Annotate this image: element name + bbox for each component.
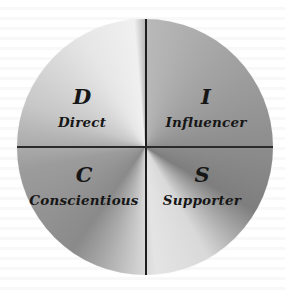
quadrant-letter: C	[22, 163, 146, 187]
quadrant-influencer: I Influencer	[150, 85, 262, 131]
quadrant-label: Supporter	[150, 191, 254, 209]
quadrant-letter: S	[150, 163, 254, 187]
quadrant-conscientious: C Conscientious	[22, 163, 146, 209]
quadrant-letter: I	[150, 85, 262, 109]
quadrant-letter: D	[40, 85, 124, 109]
quadrant-supporter: S Supporter	[150, 163, 254, 209]
quadrant-label: Conscientious	[22, 191, 146, 209]
horizontal-divider	[17, 146, 273, 148]
quadrant-label: Direct	[40, 113, 124, 131]
quadrant-direct: D Direct	[40, 85, 124, 131]
quadrant-label: Influencer	[150, 113, 262, 131]
